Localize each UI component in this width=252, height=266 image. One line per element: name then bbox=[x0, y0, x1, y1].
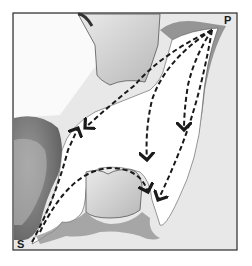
label-s: S bbox=[17, 238, 24, 250]
tooth-flow-diagram: P S bbox=[0, 0, 252, 266]
lower-tooth bbox=[86, 170, 142, 219]
diagram-illustration bbox=[0, 0, 252, 266]
label-p: P bbox=[224, 14, 231, 26]
